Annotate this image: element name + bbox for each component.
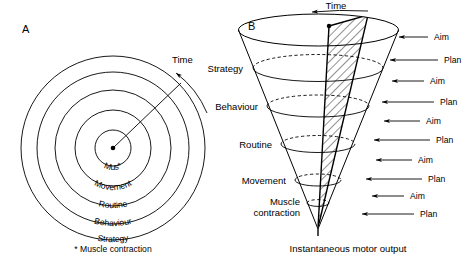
- arrow-label-aim-5: Aim: [410, 191, 425, 201]
- cone-label-strategy: Strategy: [208, 63, 244, 74]
- level-4-front: [295, 180, 341, 186]
- ring-label-routine: Routine: [98, 198, 128, 210]
- cone-label-behaviour: Behaviour: [215, 101, 258, 112]
- figure-root: A Time Mus* Movement: [0, 0, 476, 262]
- cone-wedge: [318, 15, 368, 228]
- cone-label-movement: Movement: [242, 175, 287, 186]
- level-5-front: [307, 203, 329, 206]
- arrow-label-plan-3: Plan: [436, 135, 453, 145]
- panel-a-time-label: Time: [172, 54, 193, 65]
- arrow-label-aim-3: Aim: [426, 116, 441, 126]
- arrow-label-plan-5: Plan: [420, 209, 437, 219]
- level-3-front: [281, 144, 355, 153]
- panel-a: A Time Mus* Movement: [21, 23, 207, 254]
- cone-label-muscle-line2: contraction: [254, 207, 300, 218]
- level-2-back: [267, 95, 369, 106]
- cone-level-labels: Strategy Behaviour Routine Movement Musc…: [208, 63, 300, 218]
- cone-label-routine: Routine: [239, 139, 272, 150]
- panel-a-letter: A: [22, 23, 30, 35]
- cone-label-muscle: Muscle: [270, 196, 300, 207]
- panel-a-ring-labels: Mus* Movement Routine Behaviour Strategy: [93, 160, 134, 244]
- arrow-label-plan-2: Plan: [440, 97, 457, 107]
- arrow-label-plan-1: Plan: [444, 55, 461, 65]
- level-2-front: [267, 106, 369, 117]
- arrow-label-aim-2: Aim: [430, 76, 445, 86]
- time-arc-arrow: [176, 73, 207, 113]
- figure-canvas: A Time Mus* Movement: [0, 0, 476, 262]
- ring-label-behaviour: Behaviour: [93, 216, 132, 228]
- level-1-front: [253, 68, 383, 82]
- ring-label-strategy: Strategy: [97, 233, 130, 244]
- ring-label-muscle: Mus*: [103, 160, 124, 172]
- cone-side-arrows: Aim Plan Aim Plan Aim Plan Aim Plan Aim: [362, 32, 461, 219]
- centre-dot: [111, 146, 116, 151]
- arrow-label-plan-4: Plan: [428, 174, 445, 184]
- level-5-back: [307, 200, 329, 203]
- arrow-label-aim-4: Aim: [418, 155, 433, 165]
- cone-wedge-vertex-dot: [327, 24, 331, 28]
- level-3-back: [281, 136, 355, 145]
- arrow-label-aim-1: Aim: [434, 32, 449, 42]
- panel-b-caption: Instantaneous motor output: [290, 243, 407, 254]
- cone-top-rim: [239, 14, 399, 46]
- level-1-back: [253, 55, 383, 69]
- panel-a-footnote: * Muscle contraction: [74, 244, 152, 254]
- level-4-back: [295, 174, 341, 180]
- radial-time-line: [113, 83, 181, 148]
- panel-b: B: [208, 0, 462, 254]
- panel-b-time-label: Time: [326, 0, 347, 11]
- ring-label-movement: Movement: [93, 178, 134, 193]
